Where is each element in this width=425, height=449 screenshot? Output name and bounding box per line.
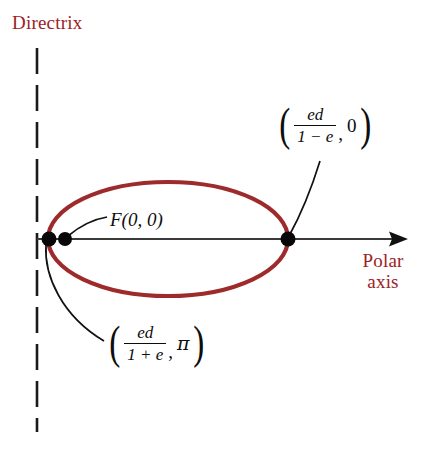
focus-label: F(0, 0): [110, 210, 163, 229]
right-vertex-point: [281, 232, 296, 247]
upper-open-paren: (: [279, 104, 290, 146]
upper-second-coordinate: 0: [344, 116, 357, 135]
lower-open-paren: (: [109, 322, 120, 364]
focus-label-text: F(0, 0): [110, 209, 163, 230]
lower-fraction-numerator: ed: [134, 323, 156, 343]
upper-fraction-numerator: ed: [304, 105, 326, 125]
upper-coord-leader-line: [289, 161, 320, 236]
lower-comma: ,: [168, 342, 173, 364]
upper-fraction: ed 1 − e: [293, 105, 337, 146]
lower-close-paren: ): [193, 322, 204, 364]
upper-fraction-denominator: 1 − e: [294, 125, 336, 146]
upper-coordinate-label: ( ed 1 − e , 0 ): [277, 104, 373, 146]
upper-coordinate-group: ( ed 1 − e , 0 ): [277, 104, 373, 146]
focus-leader-line: [68, 217, 107, 236]
lower-coordinate-group: ( ed 1 + e , π ): [107, 322, 206, 364]
polar-axis-label: Polar axis: [352, 250, 414, 293]
lower-second-coordinate: π: [174, 334, 190, 353]
polar-axis-label-line2: axis: [367, 271, 398, 292]
polar-axis-label-line1: Polar: [362, 250, 403, 271]
lower-fraction-denominator: 1 + e: [124, 343, 166, 364]
focus-point: [58, 232, 72, 246]
upper-close-paren: ): [360, 104, 371, 146]
conic-polar-diagram: Directrix Polar axis F(0, 0) ( ed 1 − e …: [0, 0, 425, 449]
directrix-label: Directrix: [12, 13, 82, 32]
left-vertex-point: [42, 232, 57, 247]
upper-comma: ,: [338, 124, 343, 146]
lower-fraction: ed 1 + e: [123, 323, 167, 364]
lower-coordinate-label: ( ed 1 + e , π ): [107, 322, 206, 364]
diagram-canvas: [0, 0, 425, 449]
